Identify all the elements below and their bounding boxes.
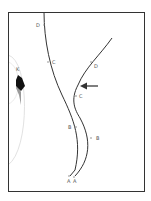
right-point-b [90, 137, 92, 139]
left-point-b [75, 126, 77, 128]
left-point-b-label: B [68, 124, 72, 130]
diagram: D C B A D C B A K [0, 0, 151, 201]
left-point-a [68, 175, 70, 177]
left-point-d-label: D [36, 22, 40, 28]
left-point-c [47, 61, 49, 63]
right-point-a-label: A [73, 178, 77, 184]
right-point-a [73, 176, 75, 178]
left-point-c-label: C [52, 59, 56, 65]
right-point-d [90, 61, 92, 63]
direction-arrow [80, 83, 98, 90]
right-point-b-label: B [96, 135, 100, 141]
right-point-c-label: C [79, 93, 83, 99]
right-point-d-label: D [94, 63, 98, 69]
left-point-a-label: A [67, 178, 71, 184]
right-point-c [75, 95, 77, 97]
left-point-d [43, 24, 45, 26]
right-curve [74, 38, 112, 176]
left-curve [44, 12, 78, 176]
